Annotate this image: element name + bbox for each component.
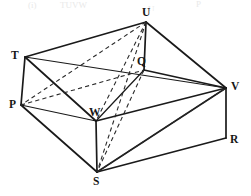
vertex-label-w: W [89,107,101,119]
edge-P-S [21,105,97,172]
edge-Q-W [96,70,144,121]
cuboid-diagram-svg [0,0,251,196]
vertex-label-p: P [9,99,16,111]
edge-Q-V [144,70,226,88]
solid-edge-group [21,22,226,172]
diagonal-P-Q [21,70,144,105]
vertex-label-r: R [230,134,238,146]
diagonal-U-S [97,22,146,172]
diagonal-U-P [21,22,146,105]
edge-T-U [25,22,146,57]
edge-W-S [96,121,97,172]
edge-S-R [97,138,226,172]
vertex-label-q: Q [137,56,146,68]
vertex-label-t: T [11,50,19,62]
vertex-label-u: U [142,7,150,19]
vertex-label-s: S [93,176,99,188]
edge-T-P [21,57,25,105]
vertex-label-v: V [231,81,239,93]
edge-P-W [21,105,96,121]
geometry-figure-canvas: (i)TUVWPU TPUQVRWS [0,0,251,196]
dashed-edge-group [21,22,226,172]
